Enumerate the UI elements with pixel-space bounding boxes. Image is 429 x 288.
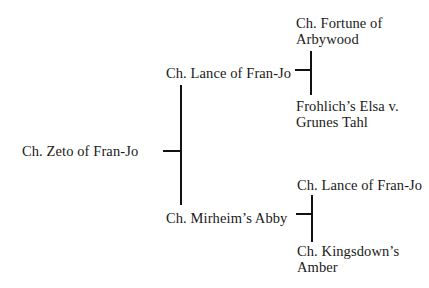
name-line: Arbywood: [296, 31, 382, 47]
name-line: Amber: [297, 259, 399, 275]
paternal-grandsire-name: Ch. Fortune of Arbywood: [296, 15, 382, 47]
subject-name: Ch. Zeto of Fran-Jo: [22, 143, 138, 159]
name-line: Grunes Tahl: [296, 114, 399, 130]
sire-name: Ch. Lance of Fran-Jo: [166, 65, 291, 81]
dam-name: Ch. Mirheim’s Abby: [166, 210, 287, 226]
connector-sire-grandparents-bar: [310, 51, 312, 95]
paternal-granddam-name: Frohlich’s Elsa v. Grunes Tahl: [296, 98, 399, 130]
name-line: Frohlich’s Elsa v.: [296, 98, 399, 114]
name-line: Ch. Lance of Fran-Jo: [297, 177, 422, 193]
maternal-grandsire-name: Ch. Lance of Fran-Jo: [297, 177, 422, 193]
connector-dam-grandparents-bar: [311, 195, 313, 242]
name-line: Ch. Kingsdown’s: [297, 243, 399, 259]
maternal-granddam-name: Ch. Kingsdown’s Amber: [297, 243, 399, 275]
connector-parents-bar: [180, 85, 182, 205]
name-line: Ch. Fortune of: [296, 15, 382, 31]
